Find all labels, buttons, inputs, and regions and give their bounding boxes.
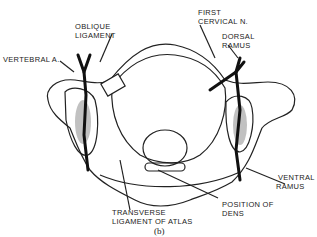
label-oblique-ligament-1: OBLIQUE bbox=[75, 22, 110, 31]
label-first-cervical-1: FIRST bbox=[198, 8, 221, 17]
label-dorsal-ramus-2: RAMUS bbox=[222, 41, 251, 50]
label-position-dens-1: POSITION OF bbox=[222, 200, 274, 209]
label-vertebral-artery: VERTEBRAL A. bbox=[3, 55, 60, 64]
label-first-cervical-2: CERVICAL N. bbox=[198, 17, 248, 26]
figure-caption: (b) bbox=[154, 226, 165, 236]
label-ventral-ramus-2: RAMUS bbox=[276, 182, 305, 191]
label-ventral-ramus-1: VENTRAL bbox=[278, 173, 315, 182]
label-oblique-ligament-2: LIGAMENT bbox=[75, 31, 116, 40]
label-position-dens-2: DENS bbox=[222, 209, 244, 218]
label-dorsal-ramus-1: DORSAL bbox=[222, 32, 255, 41]
label-transverse-ligament-2: LIGAMENT OF ATLAS bbox=[112, 217, 193, 226]
label-transverse-ligament-1: TRANSVERSE bbox=[112, 208, 166, 217]
